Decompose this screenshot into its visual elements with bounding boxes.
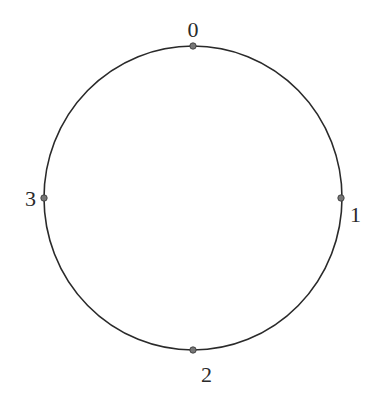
point-label-3: 3 xyxy=(25,186,36,211)
circle-diagram: 0 1 2 3 xyxy=(0,0,380,397)
point-label-0: 0 xyxy=(188,17,199,42)
point-2: 2 xyxy=(190,347,212,387)
circle xyxy=(44,46,342,350)
point-0: 0 xyxy=(188,17,199,49)
point-label-2: 2 xyxy=(201,362,212,387)
point-label-1: 1 xyxy=(350,202,361,227)
